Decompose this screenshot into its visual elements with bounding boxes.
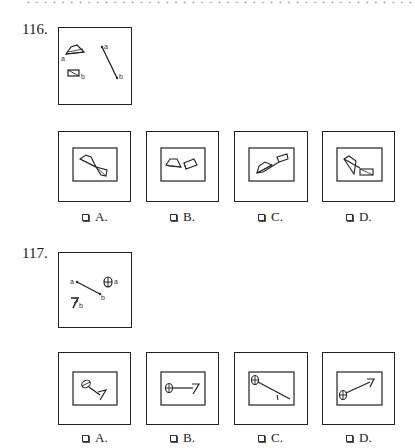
q116-option-a[interactable]: A. — [82, 209, 108, 225]
checkbox-icon[interactable] — [258, 214, 265, 221]
q116-option-a-figure[interactable] — [58, 131, 131, 202]
q116-option-d[interactable]: D. — [346, 209, 372, 225]
question-number-116: 116. — [22, 21, 48, 38]
checkbox-icon[interactable] — [346, 214, 353, 221]
q116-option-b-figure[interactable] — [146, 131, 219, 202]
q117-option-d[interactable]: D. — [346, 430, 372, 446]
label-a: a — [61, 55, 65, 62]
q117-option-d-figure[interactable] — [322, 352, 395, 425]
checkbox-icon[interactable] — [82, 214, 89, 221]
q117-option-b-figure[interactable] — [146, 352, 219, 425]
svg-text:b: b — [81, 73, 85, 80]
checkbox-icon[interactable] — [170, 214, 177, 221]
checkbox-icon[interactable] — [258, 435, 265, 442]
q117-option-c[interactable]: C. — [258, 430, 283, 446]
checkbox-icon[interactable] — [346, 435, 353, 442]
q116-option-c-figure[interactable] — [234, 131, 308, 202]
svg-text:b: b — [119, 73, 123, 80]
q116-option-b[interactable]: B. — [170, 209, 195, 225]
q117-option-a[interactable]: A. — [82, 430, 108, 446]
checkbox-icon[interactable] — [170, 435, 177, 442]
q117-option-b[interactable]: B. — [170, 430, 195, 446]
question-number-117: 117. — [22, 245, 48, 262]
checkbox-icon[interactable] — [82, 435, 89, 442]
svg-text:a: a — [114, 278, 118, 285]
dotted-separator — [24, 1, 415, 4]
svg-text:a: a — [70, 278, 74, 285]
q116-option-d-figure[interactable] — [322, 131, 395, 202]
q116-option-c[interactable]: C. — [258, 209, 283, 225]
svg-text:a: a — [104, 43, 108, 50]
svg-text:b: b — [101, 294, 105, 301]
q117-stimulus-figure: a b a b — [58, 252, 132, 328]
svg-text:b: b — [79, 302, 83, 309]
q117-option-a-figure[interactable] — [58, 352, 131, 425]
q117-option-c-figure[interactable] — [234, 352, 308, 425]
q116-stimulus-figure: a b a b — [58, 27, 132, 105]
